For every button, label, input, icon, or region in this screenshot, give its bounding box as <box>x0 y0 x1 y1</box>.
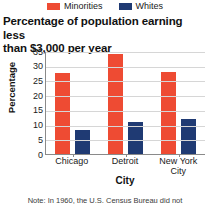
legend-label-minorities: Minorities <box>64 2 103 11</box>
y-axis-tick-label: 0 <box>25 151 43 160</box>
legend-item-minorities: Minorities <box>47 2 103 11</box>
y-axis-title: Percentage <box>6 52 17 124</box>
legend-swatch-minorities <box>47 3 60 10</box>
gridline <box>46 111 205 112</box>
bar-minorities-detroit <box>108 54 123 154</box>
y-axis-tick-label: 5 <box>25 136 43 145</box>
x-axis-tick-labels: ChicagoDetroitNew YorkCity <box>45 156 205 176</box>
y-axis-tick-label: 25 <box>25 77 43 86</box>
y-axis-tick-label: 15 <box>25 106 43 115</box>
gridline <box>46 96 205 97</box>
x-axis-tick-label: Detroit <box>98 156 151 176</box>
y-axis-ticks: 35302520151050 <box>21 48 43 155</box>
y-axis-tick-label: 30 <box>25 62 43 71</box>
legend-swatch-whites <box>119 3 132 10</box>
chart-figure: Minorities Whites Percentage of populati… <box>0 0 210 207</box>
gridline <box>46 67 205 68</box>
bar-whites-new-york-city <box>181 119 196 154</box>
x-axis-title: City <box>45 175 205 186</box>
bar-minorities-new-york-city <box>161 72 176 154</box>
bar-minorities-chicago <box>55 73 70 154</box>
gridline <box>46 52 205 53</box>
bar-whites-chicago <box>75 130 90 154</box>
y-axis-tick-label: 35 <box>25 48 43 57</box>
chart-title-line-1: Percentage of population earning less <box>3 15 207 42</box>
chart-legend: Minorities Whites <box>0 2 210 11</box>
chart-note: Note: In 1960, the U.S. Census Bureau di… <box>0 196 210 207</box>
y-axis-tick-label: 10 <box>25 121 43 130</box>
legend-label-whites: Whites <box>136 2 164 11</box>
x-axis-tick-label: Chicago <box>45 156 98 176</box>
x-axis-tick-label: New YorkCity <box>152 156 205 176</box>
plot-area <box>45 52 205 155</box>
y-axis-tick-label: 20 <box>25 92 43 101</box>
plot-wrapper: Percentage 35302520151050 <box>0 48 210 160</box>
legend-item-whites: Whites <box>119 2 164 11</box>
gridline <box>46 140 205 141</box>
gridline <box>46 81 205 82</box>
gridline <box>46 126 205 127</box>
